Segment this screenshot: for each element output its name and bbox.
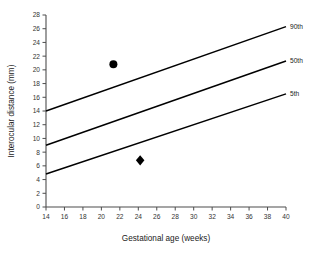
reference-line-label-5th: 5th [290, 90, 299, 97]
y-tick-label: 0 [36, 203, 40, 210]
y-tick-label: 14 [33, 107, 41, 114]
x-tick-label: 22 [116, 213, 124, 220]
y-tick-label: 20 [33, 66, 41, 73]
y-tick-label: 10 [33, 135, 41, 142]
x-tick-label: 38 [264, 213, 272, 220]
y-tick-label: 24 [33, 39, 41, 46]
x-axis-title: Gestational age (weeks) [122, 234, 211, 243]
x-tick-label: 28 [172, 213, 180, 220]
reference-line-5th [46, 94, 286, 174]
y-tick-label: 12 [33, 121, 41, 128]
x-tick-label: 34 [227, 213, 235, 220]
x-tick-label: 20 [98, 213, 106, 220]
x-tick-label: 36 [245, 213, 253, 220]
y-tick-label: 2 [36, 190, 40, 197]
x-tick-label: 16 [61, 213, 69, 220]
y-tick-label: 8 [36, 149, 40, 156]
data-point-circle [109, 60, 117, 68]
reference-line-label-50th: 50th [290, 57, 303, 64]
y-tick-label: 28 [33, 11, 41, 18]
x-tick-label: 18 [79, 213, 87, 220]
x-tick-label: 14 [42, 213, 50, 220]
reference-line-90th [46, 27, 286, 111]
reference-line-label-90th: 90th [290, 23, 303, 30]
y-tick-label: 18 [33, 80, 41, 87]
y-axis-title: Interocular distance (mm) [7, 64, 16, 157]
x-tick-label: 24 [135, 213, 143, 220]
y-tick-label: 6 [36, 162, 40, 169]
y-tick-label: 16 [33, 94, 41, 101]
y-tick-label: 4 [36, 176, 40, 183]
reference-line-50th [46, 61, 286, 145]
x-tick-label: 32 [208, 213, 216, 220]
x-tick-label: 26 [153, 213, 161, 220]
y-tick-label: 22 [33, 53, 41, 60]
data-point-diamond [136, 155, 145, 165]
x-tick-label: 40 [282, 213, 290, 220]
x-tick-label: 30 [190, 213, 198, 220]
y-tick-label: 26 [33, 25, 41, 32]
interocular-distance-scatter-chart: 0246810121416182022242628141618202224262… [0, 0, 317, 260]
figure-container: 0246810121416182022242628141618202224262… [0, 0, 317, 260]
